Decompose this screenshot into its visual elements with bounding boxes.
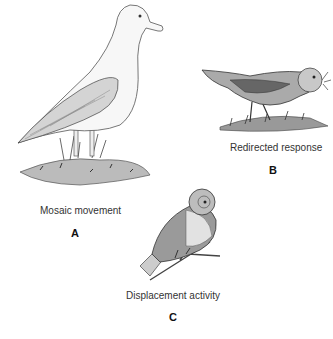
redirected-bird-illustration (190, 40, 333, 140)
caption-a: Mosaic movement (40, 205, 121, 216)
label-c: C (169, 311, 177, 323)
gull-illustration (0, 0, 180, 200)
label-a: A (71, 227, 79, 239)
label-b: B (269, 164, 277, 176)
caption-b: Redirected response (230, 142, 322, 153)
perched-bird-illustration (120, 180, 270, 290)
caption-c: Displacement activity (126, 290, 220, 301)
panel-b: Redirected response B (190, 40, 333, 180)
panel-c: Displacement activity C (120, 180, 270, 339)
